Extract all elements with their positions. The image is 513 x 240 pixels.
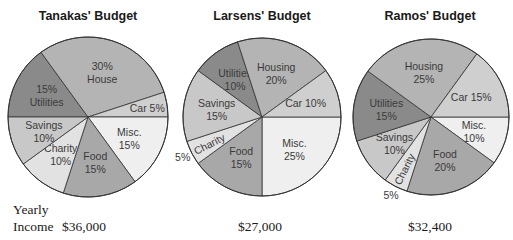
income-label: Income [13, 219, 53, 235]
outside-label: 5% [175, 151, 190, 163]
slice-label: Misc.10% [462, 119, 487, 144]
slice-label: Food15% [229, 145, 253, 170]
slice-label: Car 15% [451, 91, 492, 103]
yearly-label: Yearly [13, 202, 48, 218]
ramos-income: $32,400 [408, 219, 452, 235]
slice-label: Misc.15% [117, 126, 142, 151]
outside-label: 5% [383, 189, 398, 201]
tanakas-income: $36,000 [62, 219, 106, 235]
pie-charts: 15%Utilities30%HouseCar 5%Misc.15%Food15… [0, 0, 513, 240]
slice-label: Car 10% [285, 97, 326, 109]
slice-label: Car 5% [130, 102, 165, 114]
slice-label: Food20% [433, 148, 457, 173]
pie-1: Misc.25%Food15%Charity5%Savings15%Utilit… [175, 38, 341, 196]
slice-label: Misc.25% [282, 137, 307, 162]
larsens-income: $27,000 [238, 219, 282, 235]
pie-0: 15%Utilities30%HouseCar 5%Misc.15%Food15… [8, 37, 168, 197]
slice-label: Food15% [83, 150, 107, 175]
pie-2: Misc.10%Food20%Charity5%Savings10%Utilit… [353, 39, 509, 201]
